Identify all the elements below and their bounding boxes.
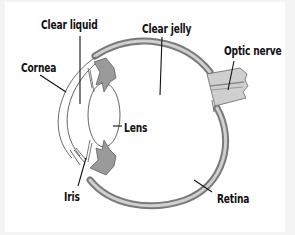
leader-iris	[78, 158, 86, 186]
label-retina: Retina	[217, 192, 249, 206]
label-iris: Iris	[64, 190, 80, 204]
optic-nerve-shape	[207, 68, 248, 112]
leader-cornea	[40, 75, 66, 92]
label-clear-liquid: Clear liquid	[41, 18, 98, 32]
label-lens: Lens	[124, 121, 147, 135]
label-optic-nerve: Optic nerve	[224, 44, 282, 58]
label-clear-jelly: Clear jelly	[142, 22, 191, 36]
diagram-frame: Clear liquid Clear jelly Optic nerve Cor…	[5, 2, 285, 232]
label-cornea: Cornea	[21, 61, 56, 75]
leader-lines	[40, 36, 234, 192]
